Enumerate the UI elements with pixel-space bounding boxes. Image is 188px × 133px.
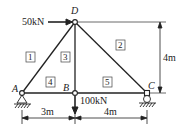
svg-text:5: 5 (105, 77, 110, 87)
load-50kN-arrow-icon (48, 19, 73, 25)
svg-text:3: 3 (63, 52, 68, 62)
joint-C (145, 91, 150, 96)
dim-height-label: 4m (163, 52, 176, 63)
roller-support-icon (139, 96, 156, 108)
svg-text:1: 1 (28, 52, 33, 62)
member-number-5: 5 (103, 77, 112, 87)
member-number-1: 1 (26, 52, 35, 62)
members (22, 22, 147, 93)
svg-text:2: 2 (118, 40, 123, 50)
truss-diagram: 4m 50kN 100kN D A B C (0, 0, 188, 133)
node-label-D: D (70, 5, 79, 16)
member-number-4: 4 (46, 77, 55, 87)
member-number-2: 2 (116, 40, 125, 50)
member-number-3: 3 (61, 52, 70, 62)
height-dimension (158, 22, 162, 93)
svg-text:4: 4 (48, 77, 53, 87)
dim-BC-label: 4m (104, 106, 117, 117)
node-label-A: A (11, 83, 19, 94)
dim-AB-label: 3m (41, 106, 54, 117)
load-50kN-label: 50kN (22, 16, 44, 27)
node-label-C: C (148, 80, 155, 91)
pin-support-icon (14, 95, 31, 108)
load-100kN-arrow-icon (72, 96, 78, 114)
node-label-B: B (63, 82, 69, 93)
joint-B (73, 91, 78, 96)
load-100kN-label: 100kN (80, 95, 107, 106)
